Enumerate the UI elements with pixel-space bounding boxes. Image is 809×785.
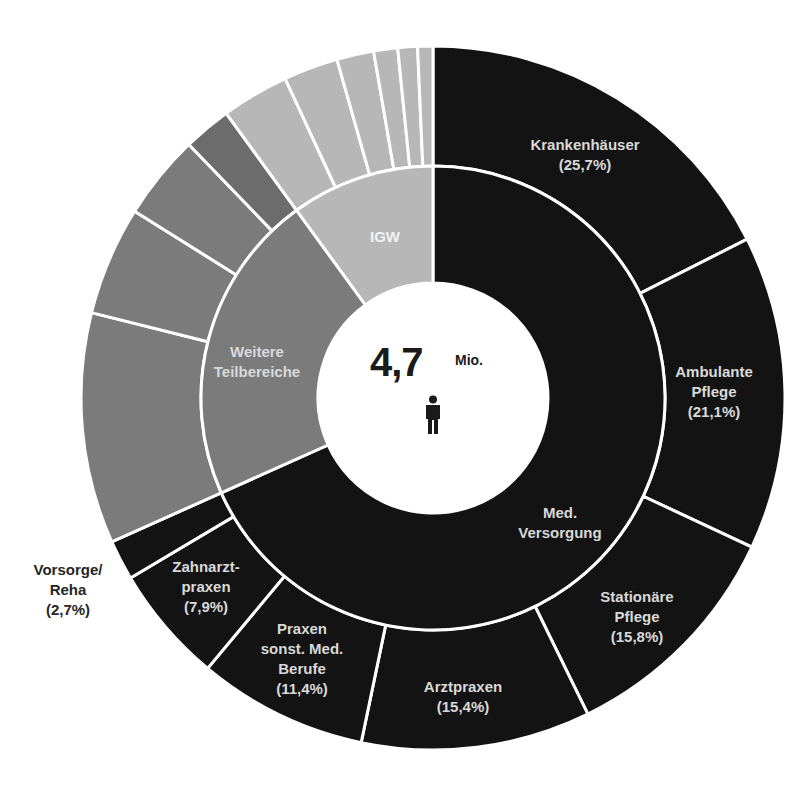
- center-total-value: 4,7: [370, 340, 423, 385]
- label-line: Stationäre: [600, 587, 673, 607]
- label-zahnarztpraxen: Zahnarzt- praxen (7,9%): [172, 557, 240, 617]
- label-med-versorgung: Med. Versorgung: [518, 503, 601, 543]
- label-line: Zahnarzt-: [172, 557, 240, 577]
- label-line: (7,9%): [172, 597, 240, 617]
- label-line: (11,4%): [261, 679, 344, 699]
- label-line: Praxen: [261, 619, 344, 639]
- label-line: (15,4%): [424, 697, 502, 717]
- person-icon: [424, 395, 442, 435]
- label-line: Pflege: [675, 382, 753, 402]
- label-line: Pflege: [600, 607, 673, 627]
- label-line: praxen: [172, 577, 240, 597]
- label-line: (25,7%): [530, 155, 639, 175]
- center-total-unit: Mio.: [455, 352, 483, 368]
- label-line: IGW: [370, 227, 400, 247]
- label-weitere-teilbereiche: Weitere Teilbereiche: [214, 342, 300, 382]
- label-line: (15,8%): [600, 627, 673, 647]
- label-line: sonst. Med.: [261, 639, 344, 659]
- label-vorsorge-reha: Vorsorge/ Reha (2,7%): [34, 560, 103, 620]
- label-line: Med.: [518, 503, 601, 523]
- label-line: Versorgung: [518, 523, 601, 543]
- label-stationaere-pflege: Stationäre Pflege (15,8%): [600, 587, 673, 647]
- label-line: Krankenhäuser: [530, 135, 639, 155]
- label-praxen-sonst-med-berufe: Praxen sonst. Med. Berufe (11,4%): [261, 619, 344, 699]
- label-line: Ambulante: [675, 362, 753, 382]
- label-line: Berufe: [261, 659, 344, 679]
- label-line: (21,1%): [675, 402, 753, 422]
- label-line: Weitere: [214, 342, 300, 362]
- label-krankenhaeuser: Krankenhäuser (25,7%): [530, 135, 639, 175]
- label-line: Arztpraxen: [424, 677, 502, 697]
- label-arztpraxen: Arztpraxen (15,4%): [424, 677, 502, 717]
- label-ambulante-pflege: Ambulante Pflege (21,1%): [675, 362, 753, 422]
- label-igw: IGW: [370, 227, 400, 247]
- label-line: (2,7%): [34, 600, 103, 620]
- label-line: Teilbereiche: [214, 362, 300, 382]
- label-line: Reha: [34, 580, 103, 600]
- label-line: Vorsorge/: [34, 560, 103, 580]
